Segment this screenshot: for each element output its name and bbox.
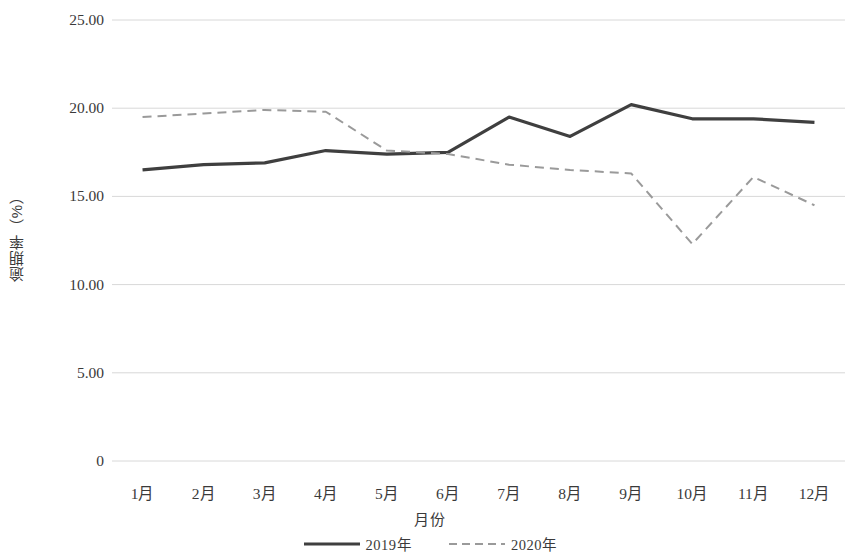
legend-item[interactable]: 2020年 [449, 533, 557, 554]
x-axis-tick-labels: 1月2月3月4月5月6月7月8月9月10月11月12月 [0, 481, 860, 507]
x-tick-label: 9月 [619, 481, 643, 503]
plot-area [0, 0, 860, 557]
y-tick-label: 15.00 [69, 188, 104, 204]
line-chart: 逾期率（%） 05.0010.0015.0020.0025.00 1月2月3月4… [0, 0, 860, 557]
x-tick-label: 8月 [558, 481, 582, 503]
x-tick-label: 7月 [497, 481, 521, 503]
series-line-2020年 [143, 110, 815, 244]
x-tick-label: 10月 [677, 481, 709, 503]
y-tick-label: 20.00 [69, 100, 104, 116]
gridlines [112, 20, 845, 461]
x-tick-label: 6月 [436, 481, 460, 503]
y-tick-label: 5.00 [77, 365, 104, 381]
y-tick-label: 10.00 [69, 277, 104, 293]
x-tick-label: 12月 [799, 481, 831, 503]
x-tick-label: 11月 [738, 481, 769, 503]
legend-label: 2019年 [366, 533, 412, 554]
x-tick-label: 2月 [192, 481, 216, 503]
x-axis-title: 月份 [0, 508, 860, 529]
x-tick-label: 3月 [253, 481, 277, 503]
x-tick-label: 5月 [375, 481, 399, 503]
x-axis-title-text: 月份 [414, 511, 446, 528]
legend-item[interactable]: 2019年 [304, 533, 412, 554]
y-tick-label: 25.00 [69, 12, 104, 28]
x-tick-label: 4月 [314, 481, 338, 503]
y-tick-label: 0 [96, 453, 104, 469]
chart-legend: 2019年2020年 [0, 533, 860, 554]
legend-label: 2020年 [511, 533, 557, 554]
x-tick-label: 1月 [131, 481, 155, 503]
legend-swatch-solid-line-icon [304, 537, 360, 551]
y-axis-tick-labels: 05.0010.0015.0020.0025.00 [0, 0, 104, 480]
legend-swatch-dashed-line-icon [449, 537, 505, 551]
series-lines [143, 105, 815, 244]
